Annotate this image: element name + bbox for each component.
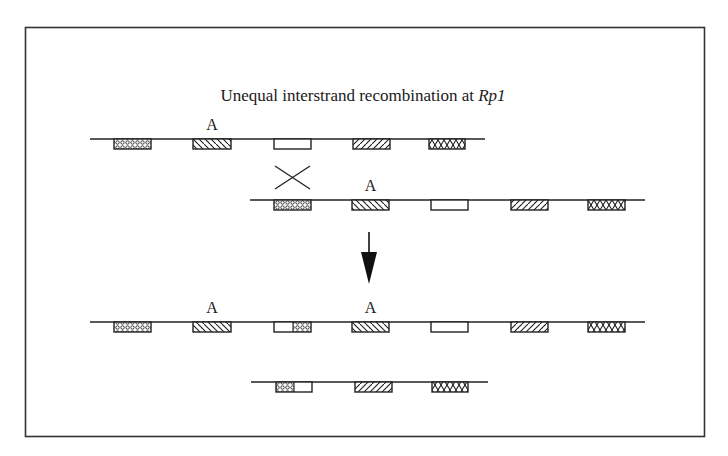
gene-box-dots [274, 200, 311, 210]
title-gene: Rp1 [477, 86, 505, 105]
diagram-title: Unequal interstrand recombination at Rp1 [220, 86, 505, 105]
gene-box-cross [432, 382, 468, 392]
gene-box-back [193, 139, 231, 149]
gene-box-empty [431, 200, 468, 210]
gene-box-dots [114, 139, 151, 149]
parent-strand-2: A [250, 177, 645, 210]
gene-box-empty [431, 322, 468, 332]
gene-box-fwd [511, 322, 548, 332]
gene-box-fwd [355, 382, 392, 392]
product-strand-short [251, 382, 488, 392]
gene-box-cross [588, 200, 625, 210]
gene-box-fwd [511, 200, 548, 210]
gene-label-a: A [206, 299, 218, 316]
crossover-icon [275, 166, 310, 189]
gene-box-fwd [353, 139, 390, 149]
recombination-diagram: Unequal interstrand recombination at Rp1… [0, 0, 728, 456]
gene-label-a: A [365, 177, 377, 194]
gene-box-cross [429, 139, 465, 149]
gene-box-dots [114, 322, 151, 332]
product-strand-long: AA [90, 299, 645, 332]
gene-label-a: A [365, 299, 377, 316]
gene-box-empty [274, 139, 311, 149]
gene-box-back [352, 322, 389, 332]
gene-label-a: A [206, 116, 218, 133]
gene-box-back [352, 200, 389, 210]
gene-box-chimera-dots-empty [276, 382, 312, 392]
title-prefix: Unequal interstrand recombination at [220, 86, 478, 105]
gene-box-chimera-empty-dots [274, 322, 311, 332]
down-arrow-icon [361, 232, 377, 284]
gene-box-back [193, 322, 231, 332]
parent-strand-1: A [90, 116, 485, 149]
gene-box-cross [588, 322, 625, 332]
